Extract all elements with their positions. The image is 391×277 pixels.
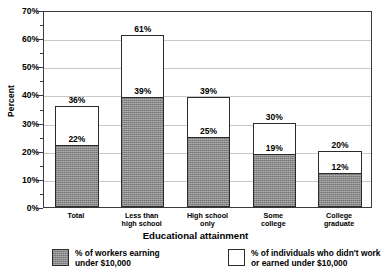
x-axis-tick-label: High school only [175,212,241,228]
bar-group[interactable]: 61%39% [121,10,164,207]
legend-item[interactable]: % of workers earning under $10,000 [52,248,160,269]
bar-value-label-workers: 12% [318,162,361,172]
chart-legend: % of workers earning under $10,000% of i… [0,248,391,277]
legend-label: % of individuals who didn't work or earn… [251,248,380,269]
y-axis-tick-label: 20% [0,147,39,157]
plot-area: 36%22%61%39%39%25%30%19%20%12% [43,11,372,208]
bar-segment-workers[interactable] [55,145,98,207]
bar-value-label-total: 39% [187,86,230,96]
bar-segment-workers[interactable] [318,173,361,207]
y-axis-tick-label: 70% [0,6,39,16]
bar-value-label-total: 36% [55,95,98,105]
bar-group[interactable]: 39%25% [187,10,230,207]
bar-chart-figure: Percent 0%10%20%30%40%50%60%70% 36%22%61… [0,0,391,277]
bar-value-label-total: 61% [121,24,164,34]
bar-segment-workers[interactable] [121,97,164,207]
y-axis-tick-mark [37,208,43,209]
x-axis-tick-label: College graduate [306,212,372,228]
y-axis-tick-label: 40% [0,90,39,100]
y-axis-tick-label: 10% [0,175,39,185]
x-axis-tick-label: Less than high school [109,212,175,228]
y-axis-tick-label: 50% [0,62,39,72]
bar-value-label-workers: 22% [55,134,98,144]
bar-group[interactable]: 36%22% [55,10,98,207]
x-axis-tick-label: Some college [240,212,306,228]
y-axis-tick-label: 60% [0,34,39,44]
bar-group[interactable]: 20%12% [318,10,361,207]
bar-group[interactable]: 30%19% [253,10,296,207]
y-axis-tick-label: 30% [0,119,39,129]
x-axis-tick-label: Total [43,212,109,220]
bar-value-label-total: 20% [318,140,361,150]
bar-value-label-total: 30% [253,112,296,122]
bar-segment-workers[interactable] [253,154,296,207]
legend-item[interactable]: % of individuals who didn't work or earn… [228,248,380,269]
bar-segment-workers[interactable] [187,137,230,207]
legend-swatch-filled [52,249,69,266]
x-axis-title: Educational attainment [0,230,391,241]
bar-value-label-workers: 19% [253,143,296,153]
bar-value-label-workers: 39% [121,86,164,96]
bar-value-label-workers: 25% [187,126,230,136]
legend-swatch-empty [228,249,245,266]
legend-label: % of workers earning under $10,000 [75,248,160,269]
y-axis-tick-label: 0% [0,203,39,213]
